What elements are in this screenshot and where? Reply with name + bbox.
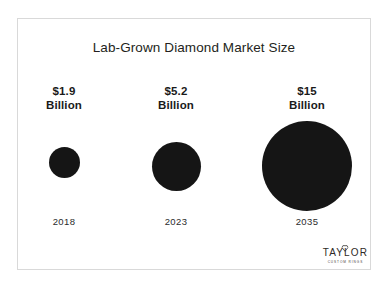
bubble-value-label-2023: $5.2 Billion xyxy=(136,85,216,112)
bubble-chart-plot-area: $1.9 Billion 2018 $5.2 Billion 2023 $15 … xyxy=(17,18,371,270)
bubble-group-2023: $5.2 Billion 2023 xyxy=(136,18,216,270)
bubble-amount-2023: $5.2 xyxy=(136,85,216,99)
bubble-unit-2035: Billion xyxy=(267,99,347,113)
brand-logo: TAYLOR CUSTOM RINGS xyxy=(323,243,368,264)
bubble-year-label-2035: 2035 xyxy=(267,216,347,227)
bubble-year-label-2023: 2023 xyxy=(136,216,216,227)
bubble-circle-2023 xyxy=(152,142,201,191)
infographic-canvas: Lab-Grown Diamond Market Size $1.9 Billi… xyxy=(0,0,388,286)
brand-tagline: CUSTOM RINGS xyxy=(323,261,368,264)
bubble-group-2018: $1.9 Billion 2018 xyxy=(24,18,104,270)
bubble-value-label-2018: $1.9 Billion xyxy=(24,85,104,112)
brand-name-text: TAYLOR xyxy=(323,247,368,258)
bubble-amount-2035: $15 xyxy=(267,85,347,99)
bubble-amount-2018: $1.9 xyxy=(24,85,104,99)
bubble-group-2035: $15 Billion 2035 xyxy=(267,18,347,270)
bubble-value-label-2035: $15 Billion xyxy=(267,85,347,112)
brand-name: TAYLOR xyxy=(323,248,368,258)
bubble-unit-2023: Billion xyxy=(136,99,216,113)
bubble-unit-2018: Billion xyxy=(24,99,104,113)
bubble-circle-2018 xyxy=(49,147,80,178)
bubble-year-label-2018: 2018 xyxy=(24,216,104,227)
bubble-circle-2035 xyxy=(262,121,352,211)
